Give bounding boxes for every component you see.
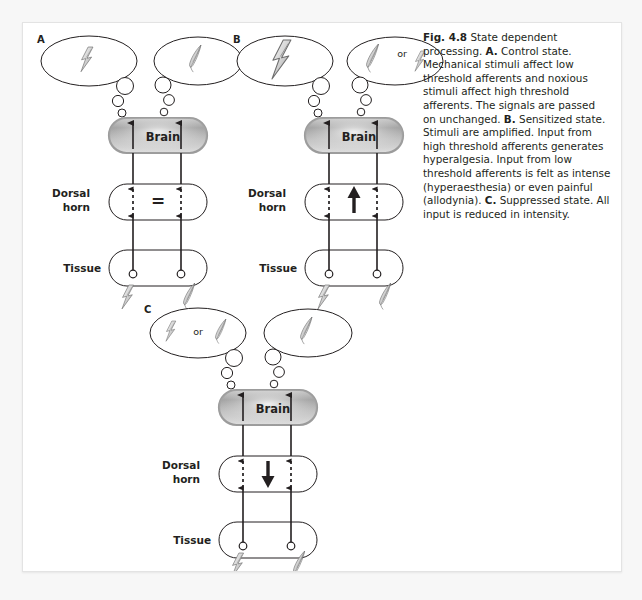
- thought-trail-circle-3: [160, 108, 168, 116]
- brain-label: Brain: [256, 402, 290, 416]
- panel-A-left-thought-bubble: [41, 36, 137, 117]
- thought-trail-circle-3: [270, 380, 278, 388]
- panel-B-left-thought-bubble: [237, 36, 333, 117]
- thought-trail-circle-2: [221, 367, 232, 378]
- panel-A-right-thought-bubble: [154, 37, 242, 116]
- panel-C: C or: [144, 304, 352, 571]
- dorsal-horn-sign-A: =: [151, 191, 165, 211]
- or-label-C: or: [193, 326, 203, 337]
- dorsal-horn-label-line1: Dorsal: [162, 459, 200, 471]
- panel-B-tissue-box: Tissue: [259, 250, 403, 286]
- panel-A-dorsal-horn-box: Dorsal horn =: [52, 184, 207, 220]
- panel-C-tissue-box: Tissue: [173, 522, 317, 558]
- thought-trail-circle-2: [274, 367, 285, 378]
- thought-trail-circle-1: [352, 77, 368, 93]
- panel-letter-C: C: [144, 304, 151, 315]
- figure-caption: Fig. 4.8 State dependent processing. A. …: [423, 31, 611, 221]
- panel-letter-A: A: [37, 34, 45, 45]
- receptor-high-threshold: [177, 270, 185, 278]
- thought-trail-circle-3: [357, 108, 365, 116]
- thought-trail-circle-1: [117, 78, 134, 95]
- caption-run-4: B.: [504, 113, 516, 125]
- thought-trail-circle-2: [361, 95, 372, 106]
- panel-letter-B: B: [233, 34, 241, 45]
- thought-trail-circle-1: [265, 349, 281, 365]
- receptor-low-threshold: [129, 270, 137, 278]
- thought-trail-circle-3: [314, 109, 322, 117]
- panel-B-dorsal-horn-box: Dorsal horn: [248, 184, 403, 220]
- caption-run-6: C.: [485, 194, 497, 206]
- receptor-low-threshold: [239, 542, 247, 550]
- thought-trail-circle-1: [313, 78, 330, 95]
- figure-page-root: A: [0, 0, 642, 600]
- tissue-feather-icon: [184, 283, 195, 309]
- brain-label: Brain: [146, 130, 180, 144]
- panel-B-brain-box: Brain: [305, 118, 403, 153]
- thought-trail-circle-2: [112, 95, 123, 106]
- dorsal-horn-label-line2: horn: [173, 473, 200, 485]
- tissue-feather-icon: [380, 283, 391, 309]
- caption-run-2: A.: [486, 45, 498, 57]
- dorsal-horn-label-line2: horn: [259, 201, 286, 213]
- dorsal-horn-label-line1: Dorsal: [248, 187, 286, 199]
- thought-trail-circle-3: [227, 381, 235, 389]
- receptor-low-threshold: [325, 270, 333, 278]
- page-sheet: A: [22, 22, 622, 572]
- dorsal-horn-label-line1: Dorsal: [52, 187, 90, 199]
- tissue-label: Tissue: [173, 534, 211, 546]
- panel-A: A: [37, 34, 242, 309]
- receptor-high-threshold: [287, 542, 295, 550]
- tissue-bolt-icon: [318, 285, 330, 309]
- panel-A-brain-box: Brain: [109, 118, 207, 153]
- panel-A-tissue-box: Tissue: [63, 250, 207, 286]
- brain-label: Brain: [342, 130, 376, 144]
- caption-run-0: Fig. 4.8: [423, 31, 467, 43]
- panel-C-right-thought-bubble: [264, 309, 352, 388]
- thought-trail-circle-2: [164, 95, 175, 106]
- receptor-high-threshold: [373, 270, 381, 278]
- panel-C-brain-box: Brain: [219, 390, 317, 425]
- tissue-label: Tissue: [63, 262, 101, 274]
- caption-run-5: Sensitized state. Stimuli are amplified.…: [423, 113, 610, 207]
- or-label-B: or: [397, 48, 407, 59]
- panel-C-dorsal-horn-box: Dorsal horn: [162, 456, 317, 492]
- thought-trail-circle-3: [118, 109, 126, 117]
- panel-C-left-thought-bubble: or: [150, 308, 246, 389]
- thought-trail-circle-1: [226, 350, 243, 367]
- panel-B: B or: [233, 34, 443, 309]
- dorsal-horn-label-line2: horn: [63, 201, 90, 213]
- tissue-label: Tissue: [259, 262, 297, 274]
- thought-trail-circle-1: [155, 77, 171, 93]
- tissue-bolt-icon: [122, 285, 134, 309]
- thought-trail-circle-2: [308, 95, 319, 106]
